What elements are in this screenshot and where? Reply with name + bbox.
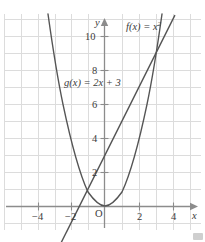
x-tick-label-neg4: −4 [32, 212, 43, 223]
x-tick-label-4: 4 [171, 212, 176, 223]
y-tick-label-8: 8 [92, 66, 97, 77]
grid-horizontal [4, 20, 201, 224]
function-label-gx: g(x) = 2x + 3 [64, 78, 121, 89]
y-axis-label: y [95, 18, 100, 29]
x-tick-label-neg2: −2 [65, 212, 76, 223]
origin-label: O [95, 209, 103, 220]
x-tick-label-2: 2 [137, 212, 142, 223]
function-label-fx-text: f(x) = x [126, 21, 158, 32]
corner-marker [193, 233, 203, 240]
coordinate-plane-svg [0, 0, 205, 242]
line-curve-gx [61, 16, 175, 242]
y-tick-label-2: 2 [92, 168, 97, 179]
y-tick-label-4: 4 [92, 134, 97, 145]
y-tick-label-10: 10 [85, 32, 96, 43]
function-label-fx: f(x) = x2 [126, 22, 161, 33]
y-tick-label-6: 6 [92, 100, 97, 111]
function-label-fx-exponent: 2 [158, 20, 162, 28]
graph-figure: −4 −2 2 4 2 4 6 8 10 O x y f(x) = x2 g(x… [0, 0, 205, 242]
x-axis-label: x [192, 211, 197, 222]
